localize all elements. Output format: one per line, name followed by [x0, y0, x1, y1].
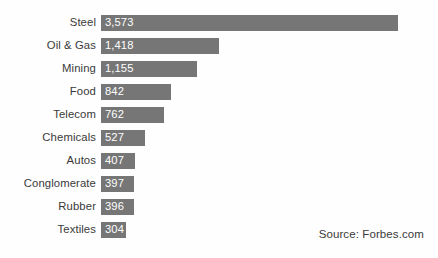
bar: 407	[101, 153, 135, 169]
bar: 842	[101, 84, 171, 100]
bar-value-label: 842	[101, 86, 124, 97]
bar-track: 3,573	[101, 11, 438, 34]
bar-row: Steel 3,573	[0, 11, 438, 34]
bar-value-label: 396	[101, 201, 124, 212]
bar-value-label: 304	[101, 224, 124, 235]
category-label: Mining	[0, 63, 96, 74]
category-label: Rubber	[0, 201, 96, 212]
category-label: Oil & Gas	[0, 40, 96, 51]
bar-track: 397	[101, 172, 438, 195]
category-label: Steel	[0, 17, 96, 28]
bar-value-label: 1,155	[101, 63, 134, 74]
bar: 527	[101, 130, 145, 146]
bar-value-label: 527	[101, 132, 124, 143]
category-label: Textiles	[0, 224, 96, 235]
bar: 396	[101, 199, 134, 215]
bar-track: 842	[101, 80, 438, 103]
bar-row: Telecom 762	[0, 103, 438, 126]
bar-track: 407	[101, 149, 438, 172]
bar: 304	[101, 222, 126, 238]
bar-value-label: 1,418	[101, 40, 134, 51]
category-label: Food	[0, 86, 96, 97]
bar-row: Conglomerate 397	[0, 172, 438, 195]
bar-value-label: 407	[101, 155, 124, 166]
bar-row: Oil & Gas 1,418	[0, 34, 438, 57]
bar-track: 762	[101, 103, 438, 126]
source-note: Source: Forbes.com	[319, 228, 424, 240]
bar-track: 1,418	[101, 34, 438, 57]
bar-value-label: 397	[101, 178, 124, 189]
bar-track: 1,155	[101, 57, 438, 80]
bar-row: Chemicals 527	[0, 126, 438, 149]
bar: 3,573	[101, 15, 398, 31]
bar-value-label: 762	[101, 109, 124, 120]
bar-value-label: 3,573	[101, 17, 134, 28]
bar: 1,418	[101, 38, 219, 54]
plot-area: Steel 3,573 Oil & Gas 1,418 Mining 1,155	[0, 11, 438, 233]
bar-row: Rubber 396	[0, 195, 438, 218]
bar-track: 396	[101, 195, 438, 218]
category-label: Autos	[0, 155, 96, 166]
bar: 762	[101, 107, 164, 123]
bar-track: 527	[101, 126, 438, 149]
bar-chart: Steel 3,573 Oil & Gas 1,418 Mining 1,155	[0, 0, 438, 258]
bar: 1,155	[101, 61, 197, 77]
category-label: Telecom	[0, 109, 96, 120]
bar: 397	[101, 176, 134, 192]
category-label: Conglomerate	[0, 178, 96, 189]
category-label: Chemicals	[0, 132, 96, 143]
bar-row: Mining 1,155	[0, 57, 438, 80]
bar-row: Autos 407	[0, 149, 438, 172]
bar-row: Food 842	[0, 80, 438, 103]
